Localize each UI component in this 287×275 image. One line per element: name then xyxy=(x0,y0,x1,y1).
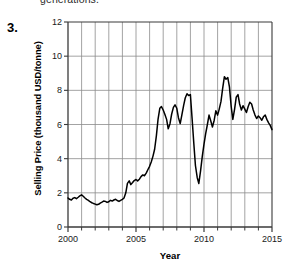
y-tick-label: 12 xyxy=(40,17,62,27)
y-tick-label: 4 xyxy=(40,154,62,164)
x-tick-label: 2015 xyxy=(262,234,282,244)
x-tick-label: 2005 xyxy=(126,234,146,244)
x-axis-title: Year xyxy=(68,250,272,261)
x-tick-label: 2010 xyxy=(194,234,214,244)
y-tick-label: 2 xyxy=(40,188,62,198)
x-tick-label: 2000 xyxy=(58,234,78,244)
line-chart-figure: Selling Price (thousand USD/tonne) Year … xyxy=(0,0,287,275)
y-tick-label: 8 xyxy=(40,85,62,95)
y-tick-label: 6 xyxy=(40,120,62,130)
y-tick-label: 10 xyxy=(40,51,62,61)
y-tick-label: 0 xyxy=(40,222,62,232)
data-series-line xyxy=(68,77,272,205)
